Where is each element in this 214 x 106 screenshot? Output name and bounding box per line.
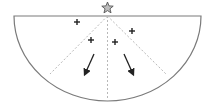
star-shape: [102, 2, 113, 13]
half-disk-diagram: [0, 0, 214, 106]
star-icon: [102, 2, 113, 13]
